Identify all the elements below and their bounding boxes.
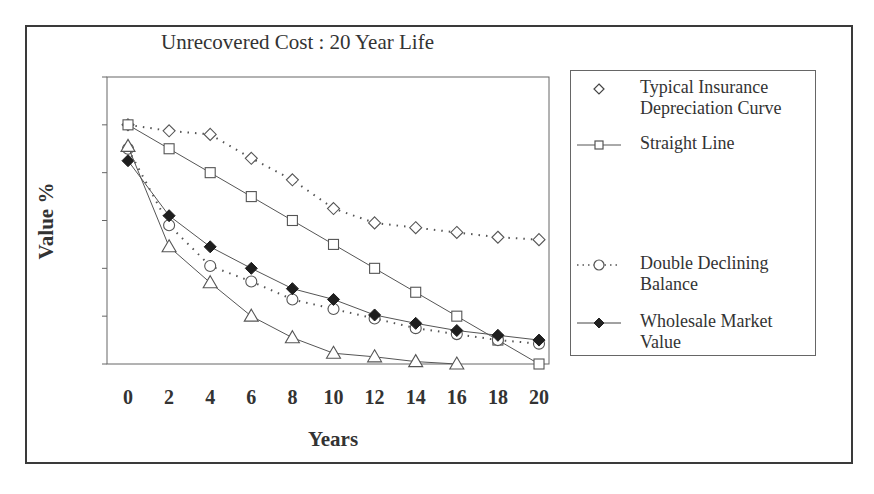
open-triangle-marker [162,240,176,252]
filled-diamond-marker [286,283,298,295]
open-diamond-marker [328,203,340,215]
open-square-marker [411,287,421,297]
open-square-marker [205,168,215,178]
open-triangle-marker [203,276,217,288]
x-tick-label: 0 [123,386,133,408]
open-square-marker [329,239,339,249]
open-triangle-marker [368,350,382,362]
open-square-marker [370,263,380,273]
plot-border [107,77,549,364]
filled-diamond-marker [328,293,340,305]
open-square-line-icon [577,137,621,153]
open-triangle-marker [450,357,464,369]
y-axis-label: Value % [34,183,59,260]
x-tick-label: 6 [246,386,256,408]
open-circle-marker [287,294,298,305]
legend-label: Straight Line [640,133,815,154]
x-tick-label: 12 [365,386,385,408]
legend-item-wholesale: Wholesale Market Value [571,311,815,351]
legend: Typical Insurance Depreciation Curve Str… [570,70,816,356]
open-square-marker [246,192,256,202]
open-square-marker [164,144,174,154]
filled-diamond-line-icon [577,315,621,331]
open-diamond-marker [533,234,545,246]
open-square-marker [452,311,462,321]
open-diamond-marker [492,231,504,243]
filled-diamond-marker [163,210,175,222]
open-diamond-marker [245,152,257,164]
open-diamond-marker [410,222,422,234]
x-tick-label: 16 [447,386,467,408]
open-circle-marker [205,260,216,271]
x-tick-label: 4 [205,386,215,408]
open-square-marker [287,216,297,226]
legend-item-straight-line: Straight Line [571,133,815,173]
open-triangle-marker [285,331,299,343]
open-square-marker [123,120,133,130]
open-triangle-marker [244,309,258,321]
x-axis-label: Years [308,427,358,452]
legend-item-double-declining: Double Declining Balance [571,253,815,293]
filled-diamond-marker [204,241,216,253]
x-tick-label: 18 [488,386,508,408]
legend-item-insurance: Typical Insurance Depreciation Curve [571,77,815,117]
open-square-marker [534,359,544,369]
legend-label: Wholesale Market Value [640,311,815,353]
open-circle-marker [246,276,257,287]
x-tick-label: 8 [287,386,297,408]
open-diamond-marker [204,128,216,140]
filled-diamond-marker [245,262,257,274]
open-triangle-marker [327,346,341,358]
x-tick-label: 20 [529,386,549,408]
legend-label: Typical Insurance Depreciation Curve [640,77,815,119]
open-diamond-icon [577,81,621,97]
open-diamond-marker [369,217,381,229]
open-diamond-marker [163,125,175,137]
legend-label: Double Declining Balance [640,253,815,295]
open-diamond-marker [286,174,298,186]
series-line [128,125,539,240]
x-tick-label: 10 [324,386,344,408]
x-tick-label: 14 [406,386,426,408]
open-circle-dotted-icon [577,257,621,273]
x-tick-label: 2 [164,386,174,408]
open-diamond-marker [451,226,463,238]
